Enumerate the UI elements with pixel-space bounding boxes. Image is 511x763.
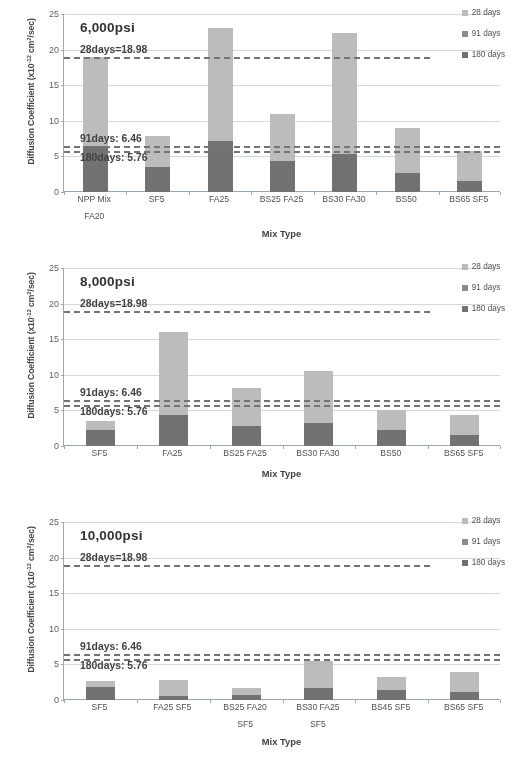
bar-segment-180days <box>457 181 482 192</box>
legend-swatch-icon <box>462 31 468 37</box>
x-axis-tick-label: BS65 SF5 <box>419 448 509 459</box>
y-tick-mark <box>61 268 64 269</box>
legend-item: 28 days <box>462 8 505 17</box>
y-axis-tick-label: 20 <box>49 45 59 55</box>
bar-segment-180days <box>450 692 479 700</box>
bar-stack <box>450 672 479 700</box>
y-tick-mark <box>61 85 64 86</box>
y-axis-tick-label: 25 <box>49 517 59 527</box>
bar-stack <box>232 388 261 446</box>
reference-line <box>64 400 500 402</box>
x-axis-title: Mix Type <box>63 228 500 239</box>
legend-item: 180 days <box>462 304 505 313</box>
reference-line-label: 28days=18.98 <box>80 552 147 563</box>
plot-area: 05101520256,000psi28days=18.9891days: 6.… <box>63 14 500 192</box>
y-tick-mark <box>61 558 64 559</box>
y-axis-tick-label: 15 <box>49 334 59 344</box>
y-tick-mark <box>61 304 64 305</box>
bar-segment-180days <box>232 426 261 446</box>
bar-stack <box>145 136 170 192</box>
gridline <box>64 268 500 269</box>
bar-stack <box>86 421 115 446</box>
reference-line-label: 28days=18.98 <box>80 298 147 309</box>
legend-label: 180 days <box>472 304 505 313</box>
legend-label: 91 days <box>472 537 501 546</box>
y-axis-title: Diffusion Coefficient (x10-12 cm2/sec) <box>26 252 37 438</box>
reference-line-label: 91days: 6.46 <box>80 641 142 652</box>
y-tick-mark <box>61 522 64 523</box>
legend-swatch-icon <box>462 52 468 58</box>
y-axis-tick-label: 25 <box>49 9 59 19</box>
legend-swatch-icon <box>462 264 468 270</box>
chart-title: 8,000psi <box>80 274 135 289</box>
y-axis-tick-label: 10 <box>49 116 59 126</box>
y-axis-tick-label: 5 <box>54 151 59 161</box>
y-tick-mark <box>61 410 64 411</box>
bar-segment-180days <box>145 167 170 192</box>
bar-segment-180days <box>304 688 333 700</box>
legend-item: 180 days <box>462 50 505 59</box>
legend-label: 91 days <box>472 283 501 292</box>
legend-item: 91 days <box>462 537 505 546</box>
bar-stack <box>304 371 333 446</box>
bar-stack <box>304 661 333 700</box>
gridline <box>64 593 500 594</box>
reference-line-label: 180days: 5.76 <box>80 406 148 417</box>
chart-title: 10,000psi <box>80 528 143 543</box>
legend: 28 days91 days180 days <box>462 516 505 579</box>
y-axis-tick-label: 20 <box>49 299 59 309</box>
bar-stack <box>83 57 108 192</box>
x-axis-tick-label: SF5 <box>273 719 363 730</box>
legend-item: 28 days <box>462 262 505 271</box>
bar-segment-180days <box>159 415 188 446</box>
bar-stack <box>159 680 188 700</box>
bar-segment-28days <box>86 421 115 430</box>
x-axis-labels: SF5FA25 SF5BS25 FA20SF5BS30 FA25SF5BS45 … <box>63 702 500 736</box>
bar-stack <box>86 681 115 700</box>
bar-stack <box>450 415 479 446</box>
x-axis-title: Mix Type <box>63 736 500 747</box>
y-tick-mark <box>61 629 64 630</box>
y-axis-tick-label: 15 <box>49 588 59 598</box>
bar-segment-28days <box>450 672 479 693</box>
reference-line-label: 180days: 5.76 <box>80 152 148 163</box>
y-axis-tick-label: 10 <box>49 624 59 634</box>
reference-line <box>64 565 430 567</box>
legend-label: 180 days <box>472 558 505 567</box>
gridline <box>64 14 500 15</box>
bar-segment-28days <box>377 410 406 429</box>
bar-segment-28days <box>159 332 188 415</box>
reference-line <box>64 311 430 313</box>
bar-segment-180days <box>86 430 115 446</box>
plot-area: 051015202510,000psi28days=18.9891days: 6… <box>63 522 500 700</box>
bar-segment-180days <box>270 161 295 192</box>
legend-swatch-icon <box>462 306 468 312</box>
x-axis-tick-label: BS65 SF5 <box>424 194 511 205</box>
bar-segment-180days <box>332 154 357 192</box>
bar-stack <box>395 128 420 192</box>
y-axis-title: Diffusion Coefficient (x10-12 cm2/sec) <box>26 0 37 184</box>
legend-label: 28 days <box>472 262 501 271</box>
reference-line-label: 91days: 6.46 <box>80 133 142 144</box>
chart-title: 6,000psi <box>80 20 135 35</box>
x-axis-tick-label: FA20 <box>49 211 139 222</box>
legend-label: 91 days <box>472 29 501 38</box>
chart-panel-6000psi: Diffusion Coefficient (x10-12 cm2/sec)05… <box>0 0 511 254</box>
x-axis-tick-label: BS65 SF5 <box>419 702 509 713</box>
reference-line-label: 28days=18.98 <box>80 44 147 55</box>
bar-segment-28days <box>304 371 333 423</box>
legend-swatch-icon <box>462 285 468 291</box>
reference-line-label: 91days: 6.46 <box>80 387 142 398</box>
gridline <box>64 629 500 630</box>
y-axis-tick-label: 5 <box>54 659 59 669</box>
legend-label: 180 days <box>472 50 505 59</box>
y-tick-mark <box>61 593 64 594</box>
y-axis-tick-label: 25 <box>49 263 59 273</box>
gridline <box>64 522 500 523</box>
gridline <box>64 375 500 376</box>
y-axis-tick-label: 20 <box>49 553 59 563</box>
y-axis-title: Diffusion Coefficient (x10-12 cm2/sec) <box>26 506 37 692</box>
bar-segment-180days <box>450 435 479 446</box>
y-tick-mark <box>61 664 64 665</box>
reference-line <box>64 654 500 656</box>
